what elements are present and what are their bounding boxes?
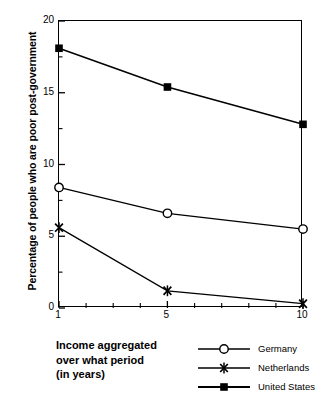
- y-tick-label: 15: [32, 87, 54, 97]
- chart-figure: Percentage of people who are poor post-g…: [0, 0, 330, 396]
- legend-key-star-x-icon: [196, 359, 252, 377]
- x-axis-ticks: [59, 301, 303, 308]
- legend-item-netherlands: Netherlands: [196, 358, 330, 377]
- plot-svg: [59, 21, 303, 308]
- legend-item-united-states: United States: [196, 377, 330, 396]
- data-point-marker: [299, 225, 307, 233]
- data-point-marker: [55, 183, 63, 191]
- plot-area: [58, 20, 302, 307]
- y-tick-label: 20: [32, 15, 54, 25]
- data-point-marker: [163, 209, 171, 217]
- series-germany: [55, 183, 307, 233]
- x-tick-label: 10: [289, 310, 315, 320]
- y-axis-ticks: [59, 21, 65, 308]
- legend-label: United States: [252, 381, 315, 393]
- series-united-states: [55, 44, 307, 128]
- x-tick-label: 5: [153, 310, 179, 320]
- x-axis-tick-labels: 1 5 10: [58, 310, 302, 324]
- caption-line-3: (in years): [56, 367, 206, 382]
- y-tick-label: 5: [32, 230, 54, 240]
- legend-key-filled-square-icon: [196, 378, 252, 396]
- caption-line-1: Income aggregated: [56, 338, 206, 353]
- y-tick-label: 10: [32, 159, 54, 169]
- series-netherlands: [55, 222, 307, 309]
- data-series-group: [55, 44, 307, 309]
- legend-label: Netherlands: [252, 362, 309, 374]
- legend-item-germany: Germany: [196, 339, 330, 358]
- data-point-marker: [55, 222, 63, 233]
- x-tick-label: 1: [45, 310, 71, 320]
- legend-label: Germany: [252, 343, 297, 355]
- legend-key-open-circle-icon: [196, 340, 252, 358]
- chart-legend: Germany Netherlands United States: [196, 339, 330, 396]
- data-point-marker: [164, 83, 172, 91]
- data-point-marker: [299, 121, 307, 129]
- data-point-marker: [55, 44, 63, 52]
- y-axis-tick-labels: 20 15 10 5 0: [28, 20, 54, 307]
- x-axis-caption: Income aggregated over what period (in y…: [56, 338, 206, 382]
- cropped-title-remnant: [70, 0, 230, 6]
- caption-line-2: over what period: [56, 353, 206, 368]
